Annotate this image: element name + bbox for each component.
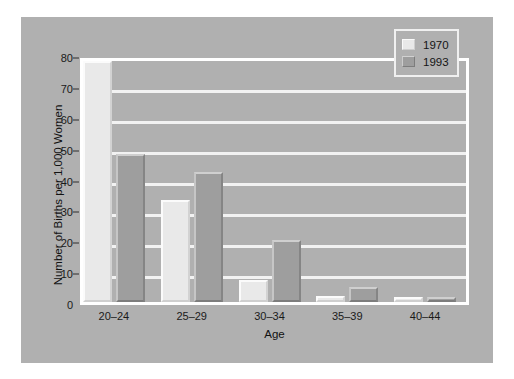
bar-face (427, 297, 456, 302)
gridline (83, 90, 466, 93)
bar-face (394, 297, 423, 302)
legend-swatch-1970-icon (402, 39, 415, 50)
bar-face (272, 240, 301, 302)
y-axis-tick-mark (73, 181, 79, 183)
bar-1970-35–39[interactable] (316, 296, 345, 302)
y-axis-title: Number of Births per 1,000 Women (52, 90, 64, 300)
plot-area (80, 58, 469, 305)
x-axis-tick-label: 40–44 (410, 310, 441, 322)
bar-face (349, 287, 378, 302)
legend-swatch-1993-icon (402, 56, 415, 67)
y-axis-tick-mark (73, 88, 79, 90)
y-axis-tick-label: 80 (61, 52, 73, 64)
y-axis-tick-mark (73, 273, 79, 275)
bar-1993-20–24[interactable] (116, 154, 145, 302)
bar-face (316, 296, 345, 302)
chart-figure: 01020304050607080 Number of Births per 1… (18, 14, 496, 366)
y-axis-tick-mark (73, 211, 79, 213)
legend-item-1970[interactable]: 1970 (402, 36, 449, 53)
x-axis-title: Age (80, 328, 469, 340)
y-axis-tick-mark (73, 242, 79, 244)
x-axis-tick-labels: 20–2425–2930–3435–3940–44 (80, 310, 469, 330)
bar-1993-30–34[interactable] (272, 240, 301, 302)
y-axis-tick-mark (73, 57, 79, 59)
y-axis-tick-label: 0 (67, 299, 73, 311)
y-axis-title-wrapper: Number of Births per 1,000 Women (39, 77, 55, 287)
bar-1970-20–24[interactable] (83, 61, 112, 302)
bar-1993-40–44[interactable] (427, 297, 456, 302)
bar-face (239, 280, 268, 302)
bar-1970-30–34[interactable] (239, 280, 268, 302)
gridline (83, 121, 466, 124)
bar-1993-35–39[interactable] (349, 287, 378, 302)
y-axis-tick-mark (73, 150, 79, 152)
legend-label-1970: 1970 (423, 39, 449, 51)
bar-face (194, 172, 223, 302)
bar-1970-40–44[interactable] (394, 297, 423, 302)
x-axis-tick-label: 20–24 (99, 310, 130, 322)
x-axis-tick-label: 30–34 (254, 310, 285, 322)
legend-label-1993: 1993 (423, 56, 449, 68)
bar-1970-25–29[interactable] (161, 200, 190, 302)
x-axis-tick-label: 35–39 (332, 310, 363, 322)
x-axis-tick-label: 25–29 (176, 310, 207, 322)
legend-item-1993[interactable]: 1993 (402, 53, 449, 70)
bar-face (83, 61, 112, 302)
chart-legend: 1970 1993 (394, 29, 459, 77)
bar-face (116, 154, 145, 302)
y-axis-tick-mark (73, 119, 79, 121)
bar-1993-25–29[interactable] (194, 172, 223, 302)
bar-face (161, 200, 190, 302)
